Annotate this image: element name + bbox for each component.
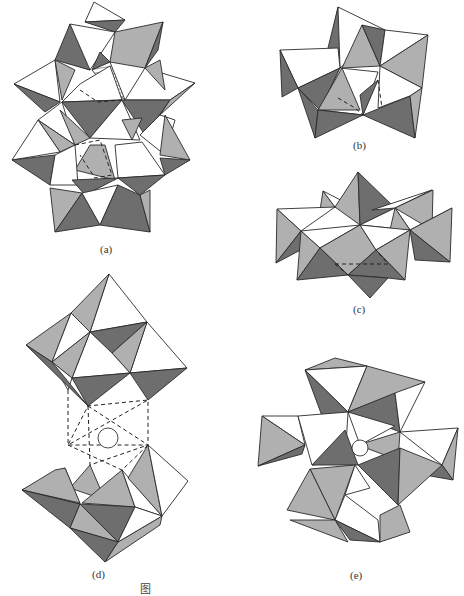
polyhedra-cluster-c bbox=[260, 160, 464, 325]
polyhedra-cluster-b bbox=[260, 0, 464, 160]
polyhedra-panel-e: (e) bbox=[250, 320, 464, 588]
polyhedra-panel-b: (b) bbox=[260, 0, 464, 160]
panel-label-e: (e) bbox=[350, 569, 362, 581]
polyhedra-cluster-d bbox=[0, 260, 240, 588]
panel-label-d: (d) bbox=[92, 568, 105, 580]
polyhedra-cluster-e bbox=[250, 320, 464, 588]
panel-label-c: (c) bbox=[353, 303, 365, 315]
polyhedra-panel-c: (c) bbox=[260, 160, 464, 325]
panel-label-a: (a) bbox=[100, 243, 112, 255]
polyhedra-cluster-a bbox=[0, 0, 240, 245]
polyhedra-panel-d: (d) bbox=[0, 260, 240, 588]
panel-label-b: (b) bbox=[353, 139, 366, 151]
figure-caption: 图 bbox=[140, 580, 151, 596]
polyhedra-panel-a: (a) bbox=[0, 0, 240, 245]
